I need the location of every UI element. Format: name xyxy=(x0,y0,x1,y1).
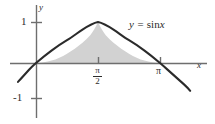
plot-canvas xyxy=(0,0,215,124)
x-tick-label-pi: π xyxy=(156,66,161,76)
fraction-denominator: 2 xyxy=(95,77,100,86)
y-tick-label-negative-one: -1 xyxy=(13,92,22,103)
equation-lhs: y = xyxy=(129,18,147,30)
curve-equation-label: y = sinx xyxy=(129,19,165,30)
fraction-numerator: π xyxy=(95,66,100,75)
x-tick-label-pi-over-two: π 2 xyxy=(93,66,102,87)
equation-argument: x xyxy=(160,18,165,30)
y-tick-label-one: 1 xyxy=(21,16,27,27)
equation-function-name: sin xyxy=(147,18,160,30)
y-axis-label: y xyxy=(39,3,43,12)
sine-curve-figure: y x 1 -1 π 2 π y = sinx xyxy=(0,0,215,124)
x-axis-label: x xyxy=(197,61,201,70)
